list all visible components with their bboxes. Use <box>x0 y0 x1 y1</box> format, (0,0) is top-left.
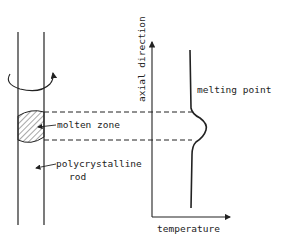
temperature-curve <box>190 50 206 208</box>
float-zone-diagram: axial direction melting point molten zon… <box>0 0 282 239</box>
temperature-label: temperature <box>157 223 220 234</box>
rotation-arrow-icon <box>8 73 53 91</box>
polycrystalline-leader <box>36 164 56 168</box>
molten-zone-label: molten zone <box>57 119 120 130</box>
polycrystalline-label: polycrystalline <box>56 158 142 169</box>
axial-direction-label: axial direction <box>136 16 147 102</box>
rod-label: rod <box>69 171 86 182</box>
melting-point-label: melting point <box>197 84 271 95</box>
